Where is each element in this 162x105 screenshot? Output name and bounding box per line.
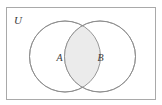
universe-label: U xyxy=(14,14,23,26)
set-a-label: A xyxy=(55,52,63,63)
venn-diagram-canvas: U A B xyxy=(0,0,162,105)
set-b-label: B xyxy=(97,52,103,63)
venn-diagram-figure: U A B xyxy=(0,0,162,105)
